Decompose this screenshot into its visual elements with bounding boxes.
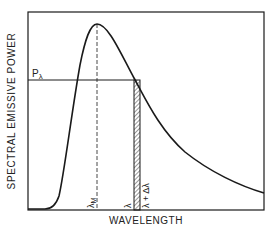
lambda-max-sub: M bbox=[90, 198, 97, 204]
band-end-label: λ + Δλ bbox=[141, 183, 151, 208]
p-lambda-sub: λ bbox=[39, 72, 43, 81]
hatched-band bbox=[134, 80, 140, 210]
lambda-max-label: λM bbox=[86, 198, 97, 209]
diagram-canvas: SPECTRAL EMISSIVE POWER WAVELENGTH Pλ λM… bbox=[0, 0, 271, 229]
band-start-label: λ bbox=[123, 203, 133, 208]
p-lambda-label: Pλ bbox=[32, 68, 43, 81]
x-axis-label: WAVELENGTH bbox=[109, 215, 183, 226]
spectral-curve bbox=[28, 24, 264, 209]
plot-frame bbox=[28, 12, 264, 210]
y-axis-label: SPECTRAL EMISSIVE POWER bbox=[6, 33, 17, 190]
